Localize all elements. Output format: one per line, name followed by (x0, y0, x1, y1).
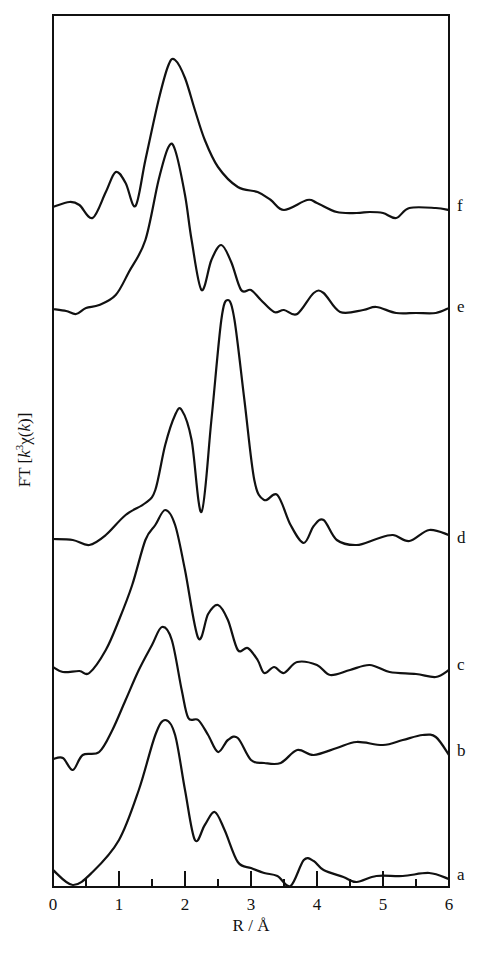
curve-d (53, 300, 449, 545)
curve-f (53, 59, 449, 218)
x-tick-label: 1 (115, 895, 124, 915)
curve-b (53, 627, 449, 770)
curve-label-d: d (457, 528, 466, 548)
x-tick-label: 5 (379, 895, 388, 915)
x-tick-label: 3 (247, 895, 256, 915)
x-tick-label: 0 (49, 895, 58, 915)
plot-area (0, 0, 489, 953)
y-axis-label: FT [k3χ(k)] (13, 413, 35, 488)
curve-label-e: e (457, 297, 465, 317)
x-axis-label: R / Å (233, 916, 270, 936)
x-tick-label: 2 (181, 895, 190, 915)
curve-label-f: f (457, 196, 463, 216)
x-tick-label: 6 (445, 895, 454, 915)
curve-label-b: b (457, 741, 466, 761)
x-tick-label: 4 (313, 895, 322, 915)
curve-label-a: a (457, 865, 465, 885)
curve-e (53, 144, 449, 315)
curve-label-c: c (457, 655, 465, 675)
